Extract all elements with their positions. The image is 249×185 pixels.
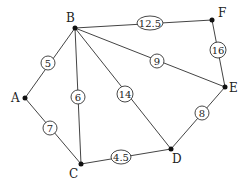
node-b [73, 26, 78, 31]
svg-text:8: 8 [199, 108, 205, 119]
svg-text:7: 7 [47, 123, 53, 134]
label-e: E [229, 81, 238, 95]
label-a: A [10, 91, 20, 105]
svg-text:14: 14 [119, 89, 132, 100]
weight-c-d: 4.5 [111, 150, 131, 164]
svg-text:6: 6 [75, 92, 81, 103]
weight-e-f: 16 [210, 42, 226, 58]
node-c [79, 162, 84, 167]
weight-labels: 5 7 6 14 9 12.5 4.5 8 [41, 16, 226, 164]
node-e [223, 85, 228, 90]
node-a [23, 96, 28, 101]
label-d: D [172, 152, 182, 166]
weight-b-c: 6 [71, 90, 85, 104]
weight-d-e: 8 [195, 106, 209, 120]
weight-a-b: 5 [41, 56, 55, 70]
weight-b-f: 12.5 [137, 16, 163, 30]
label-b: B [66, 11, 75, 25]
weighted-graph: 5 7 6 14 9 12.5 4.5 8 [0, 0, 249, 185]
weight-b-d: 14 [117, 86, 133, 102]
weight-a-c: 7 [43, 121, 57, 135]
svg-text:12.5: 12.5 [139, 18, 161, 29]
label-c: C [69, 167, 78, 181]
label-f: F [218, 6, 226, 20]
svg-text:5: 5 [45, 58, 51, 69]
node-f [210, 18, 215, 23]
svg-text:9: 9 [154, 56, 160, 67]
node-d [169, 147, 174, 152]
weight-b-e: 9 [150, 54, 164, 68]
svg-text:4.5: 4.5 [113, 152, 129, 163]
svg-text:16: 16 [212, 45, 225, 56]
edge-b-e [75, 28, 225, 87]
